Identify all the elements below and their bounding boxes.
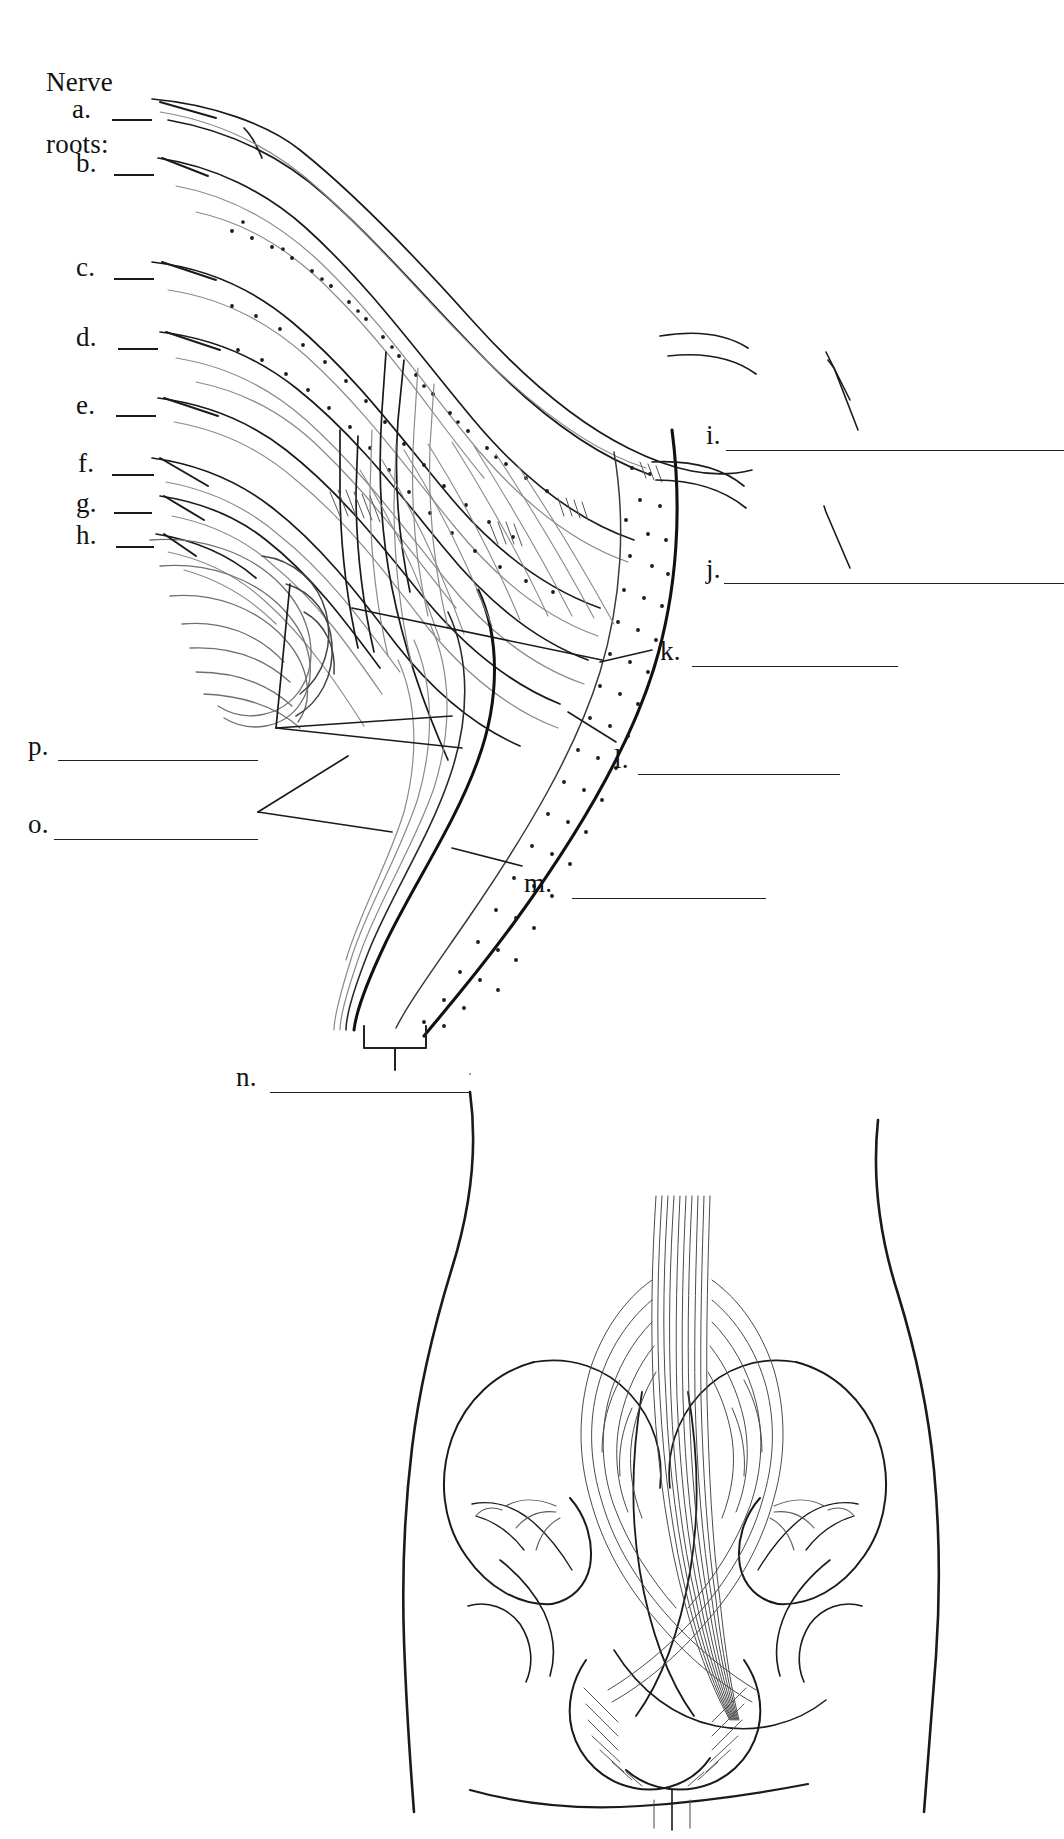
- answer-blank-j[interactable]: [724, 583, 1064, 584]
- answer-blank-p[interactable]: [58, 760, 258, 761]
- answer-blank-n[interactable]: [270, 1092, 470, 1093]
- answer-blank-o[interactable]: [54, 839, 258, 840]
- answer-blank-i[interactable]: [726, 450, 1064, 451]
- label-e: e.: [76, 392, 95, 419]
- answer-blank-f[interactable]: [112, 474, 154, 476]
- label-j: j.: [706, 556, 721, 583]
- label-m: m.: [524, 870, 552, 897]
- plexus-illustration: [0, 0, 1064, 1839]
- label-b: b.: [76, 150, 97, 177]
- label-d: d.: [76, 324, 97, 351]
- label-f: f.: [78, 450, 94, 477]
- answer-blank-g[interactable]: [114, 512, 152, 514]
- label-k: k.: [660, 638, 681, 665]
- answer-blank-e[interactable]: [116, 415, 156, 417]
- answer-blank-d[interactable]: [118, 348, 158, 350]
- label-p: p.: [28, 733, 49, 760]
- answer-blank-c[interactable]: [114, 278, 154, 280]
- leader-lines: [0, 0, 1064, 1839]
- label-i: i.: [706, 422, 721, 449]
- label-o: o.: [28, 811, 49, 838]
- label-l: l.: [614, 746, 629, 773]
- answer-blank-l[interactable]: [638, 774, 840, 775]
- label-g: g.: [76, 490, 97, 517]
- torso-orientation-inset: [0, 0, 1064, 1839]
- answer-blank-m[interactable]: [572, 898, 766, 899]
- label-n: n.: [236, 1064, 257, 1091]
- answer-blank-b[interactable]: [114, 174, 154, 176]
- label-c: c.: [76, 254, 95, 281]
- answer-blank-k[interactable]: [692, 666, 898, 667]
- answer-blank-a[interactable]: [112, 119, 152, 121]
- label-h: h.: [76, 522, 97, 549]
- worksheet-page: Nerve roots: a. b. c. d. e. f. g. h. i. …: [0, 0, 1064, 1839]
- label-a: a.: [72, 96, 91, 123]
- answer-blank-h[interactable]: [116, 546, 154, 548]
